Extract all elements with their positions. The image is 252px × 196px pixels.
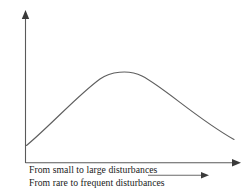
x-axis-caption-secondary: From rare to frequent disturbances bbox=[29, 177, 165, 188]
y-axis-arrow-icon bbox=[22, 10, 29, 19]
intermediate-disturbance-figure: Biodiversity From small to large disturb… bbox=[0, 0, 252, 196]
biodiversity-curve bbox=[27, 72, 235, 145]
x-axis-arrow-icon bbox=[232, 159, 241, 166]
caption-arrow-icon bbox=[201, 172, 209, 179]
x-axis-caption-primary: From small to large disturbances bbox=[29, 164, 157, 175]
